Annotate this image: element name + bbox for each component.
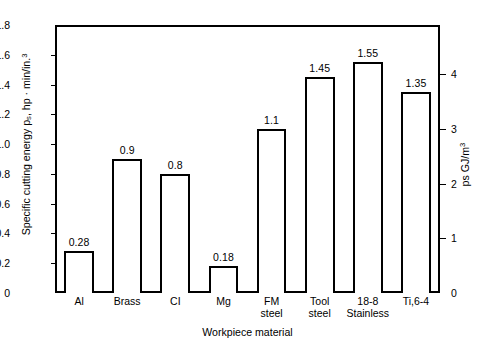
bars-layer: 0.280.90.80.181.11.451.551.35 [55, 25, 440, 293]
bar-value-label: 0.9 [99, 145, 155, 156]
y-axis-right-tick-label: 2 [451, 178, 457, 189]
y-axis-right-tick-label: 3 [451, 123, 457, 134]
y-axis-left-tick-label: 1.4 [0, 79, 10, 90]
y-axis-left-tick-label: 0.8 [0, 168, 10, 179]
bar [257, 129, 287, 293]
bar-value-label: 1.45 [292, 63, 348, 74]
y-axis-left-tick-label: 0.4 [0, 228, 10, 239]
bar [209, 266, 239, 293]
bar [305, 77, 335, 293]
y-axis-left-tick-label: 1.6 [0, 49, 10, 60]
y-axis-right-tick-label: 4 [451, 69, 457, 80]
x-axis-tick-label-line1: Ti,6-4 [378, 296, 454, 308]
y-axis-left-tick-label: 0.6 [0, 198, 10, 209]
y-axis-left-tick-label: 0.2 [0, 258, 10, 269]
bar-value-label: 0.8 [147, 160, 203, 171]
y-axis-left-tick-label: 1.2 [0, 109, 10, 120]
x-axis-tick-label-line2: Stainless [330, 308, 406, 320]
y-axis-left-tick-label: 1.8 [0, 20, 10, 31]
y-axis-left-tick-label: 0 [4, 288, 10, 299]
bar [64, 251, 94, 293]
bar [160, 174, 190, 293]
bar-value-label: 0.18 [195, 252, 251, 263]
x-axis-tick-label: Ti,6-4 [378, 296, 454, 308]
chart-figure: Specific cutting energy ps, hp · min/in.… [0, 0, 482, 349]
bar-value-label: 0.28 [51, 237, 107, 248]
x-axis-title: Workpiece material [55, 326, 440, 338]
bar-value-label: 1.1 [244, 115, 300, 126]
bar-value-label: 1.55 [340, 48, 396, 59]
bar [353, 62, 383, 293]
y-axis-right-tick-mark [440, 129, 446, 130]
x-axis-tick-labels: AlBrassCIMgFMsteelToolsteel18-8Stainless… [55, 293, 440, 349]
y-axis-right-tick-mark [440, 74, 446, 75]
y-axis-right-tick-mark [440, 238, 446, 239]
y-axis-right-tick-label: 1 [451, 233, 457, 244]
bar [112, 159, 142, 293]
bar [401, 92, 431, 293]
bar-value-label: 1.35 [388, 78, 444, 89]
y-axis-right-tick-mark [440, 184, 446, 185]
y-axis-left-tick-label: 1.0 [0, 139, 10, 150]
